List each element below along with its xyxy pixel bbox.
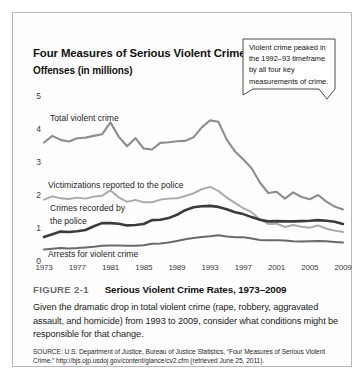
series-label-crimes-recorded-by: Crimes recorded by [50, 203, 125, 213]
y-axis-tick-5: 5 [29, 91, 41, 101]
x-axis-tick-2001: 2001 [262, 263, 292, 272]
series-line-total-violent-crime [44, 120, 343, 209]
series-label-victimizations-reported-to-the-police: Victimizations reported to the police [48, 180, 184, 190]
figure-source-note: SOURCE: U.S. Department of Justice, Bure… [33, 347, 343, 365]
x-axis-tick-1989: 1989 [162, 263, 192, 272]
series-line-arrests-for-violent-crime [44, 235, 343, 249]
figure-heading: Serious Violent Crime Rates, 1973–2009 [105, 284, 287, 295]
x-axis-tick-1997: 1997 [228, 263, 258, 272]
x-axis-tick-1973: 1973 [29, 263, 59, 272]
x-axis-tick-2009: 2009 [328, 263, 358, 272]
figure-number: FIGURE 2-1 [33, 284, 89, 295]
y-axis-tick-2: 2 [29, 190, 41, 200]
x-axis-tick-1977: 1977 [62, 263, 92, 272]
x-axis-tick-1981: 1981 [95, 263, 125, 272]
caption-block: FIGURE 2-1 Serious Violent Crime Rates, … [33, 279, 343, 365]
x-axis-tick-2005: 2005 [295, 263, 325, 272]
figure-frame: Four Measures of Serious Violent Crime O… [12, 12, 352, 367]
series-label-the-police: the police [50, 216, 87, 226]
callout-annotation: Violent crime peaked in the 1992–93 time… [241, 37, 337, 107]
series-label-arrests-for-violent-crime: Arrests for violent crime [48, 249, 138, 259]
figure-caption-body: Given the dramatic drop in total violent… [33, 301, 343, 342]
y-axis-tick-4: 4 [29, 124, 41, 134]
series-label-total-violent-crime: Total violent crime [50, 113, 119, 123]
chart-block: Four Measures of Serious Violent Crime O… [13, 13, 351, 261]
x-axis-tick-1985: 1985 [129, 263, 159, 272]
x-axis-tick-1993: 1993 [195, 263, 225, 272]
y-axis-tick-1: 1 [29, 223, 41, 233]
figure-caption-heading-row: FIGURE 2-1 Serious Violent Crime Rates, … [33, 279, 343, 297]
callout-text: Violent crime peaked in the 1992–93 time… [249, 42, 331, 87]
y-axis-tick-3: 3 [29, 157, 41, 167]
